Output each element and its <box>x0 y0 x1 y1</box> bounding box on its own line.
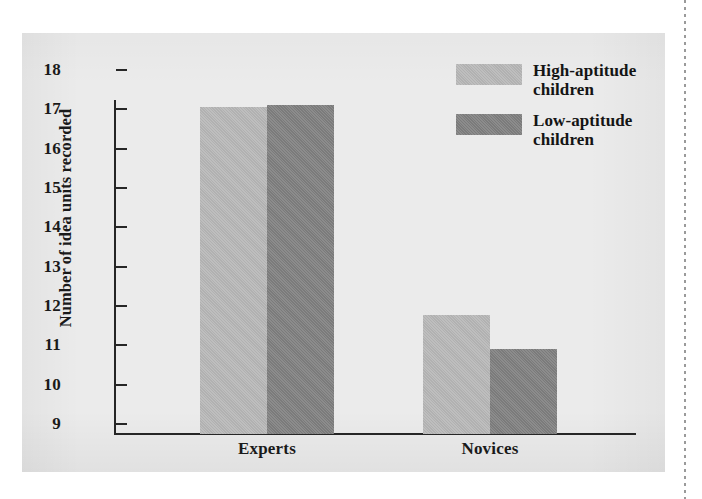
x-axis-category-label: Novices <box>410 439 570 459</box>
y-axis-tick-label: 18 <box>21 61 61 78</box>
y-axis-tick-label: 17 <box>21 100 61 117</box>
legend-swatch-texture <box>456 114 522 135</box>
bar-texture <box>267 105 334 434</box>
y-axis-tick <box>116 384 127 386</box>
legend-item: High-aptitude children <box>456 61 636 99</box>
y-axis-tick <box>116 305 127 307</box>
y-axis-tick <box>116 344 127 346</box>
scanned-page: Number of idea units recorded 1817161514… <box>0 0 702 499</box>
legend-label-high-aptitude: High-aptitude children <box>533 61 636 99</box>
y-axis-tick-label: 10 <box>21 376 61 393</box>
legend-label-line1: Low-aptitude <box>533 111 632 130</box>
y-axis-tick-label: 13 <box>21 258 61 275</box>
y-axis-tick <box>116 148 127 150</box>
legend: High-aptitude children Low-aptitude chil… <box>456 61 636 161</box>
legend-label-line1: High-aptitude <box>533 61 636 80</box>
bar <box>490 349 557 434</box>
y-axis-tick <box>116 69 127 71</box>
y-axis-tick <box>116 266 127 268</box>
legend-label-line2: children <box>533 130 594 149</box>
x-axis-category-label: Experts <box>187 439 347 459</box>
y-axis-tick-label: 9 <box>21 415 61 432</box>
y-axis-tick-label: 16 <box>21 140 61 157</box>
y-axis-tick <box>116 187 127 189</box>
plot-area: Number of idea units recorded 1817161514… <box>22 33 665 472</box>
legend-swatch-texture <box>456 64 522 85</box>
y-axis-tick <box>116 423 127 425</box>
legend-swatch-high-aptitude <box>456 64 522 85</box>
legend-item: Low-aptitude children <box>456 111 636 149</box>
x-axis-line <box>114 433 636 435</box>
bar <box>200 107 267 434</box>
y-axis-tick-label: 14 <box>21 218 61 235</box>
legend-label-low-aptitude: Low-aptitude children <box>533 111 632 149</box>
page-edge-dotted-rule <box>684 0 686 499</box>
bar-texture <box>200 107 267 434</box>
bar-texture <box>423 315 490 434</box>
bar <box>423 315 490 434</box>
y-axis-tick <box>116 108 127 110</box>
legend-swatch-low-aptitude <box>456 114 522 135</box>
y-axis-tick-label: 11 <box>21 336 61 353</box>
bar <box>267 105 334 434</box>
y-axis-tick-label: 15 <box>21 179 61 196</box>
legend-label-line2: children <box>533 80 594 99</box>
bar-texture <box>490 349 557 434</box>
y-axis-tick-label: 12 <box>21 297 61 314</box>
figure-panel: Number of idea units recorded 1817161514… <box>22 33 665 472</box>
y-axis-tick <box>116 226 127 228</box>
